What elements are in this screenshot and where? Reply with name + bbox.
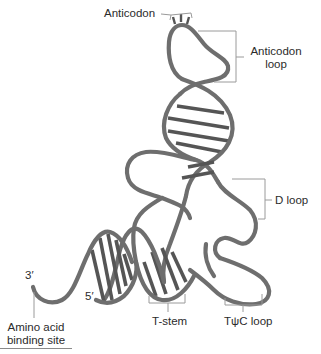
five-prime-label: 5′ bbox=[85, 290, 94, 303]
d-arm-loop-left bbox=[127, 152, 196, 218]
anticodon-label: Anticodon bbox=[104, 7, 155, 20]
anticodon-loop-label-line2: loop bbox=[246, 58, 306, 71]
central-strand-a bbox=[163, 196, 186, 282]
tpsic-connector bbox=[205, 244, 214, 276]
anticodon-stem bbox=[168, 106, 229, 152]
footer-rule bbox=[0, 348, 72, 349]
d-loop-strand bbox=[215, 182, 256, 258]
amino-acid-label-line1: Amino acid bbox=[2, 321, 70, 334]
anticodon-bases bbox=[173, 14, 189, 24]
amino-acid-binding-site-label: Amino acid binding site bbox=[2, 321, 70, 347]
tpsic-loop-label: TψC loop bbox=[224, 315, 272, 328]
three-prime-label: 3′ bbox=[25, 269, 34, 282]
tpsic-loop-strand bbox=[190, 258, 269, 304]
amino-acid-label-line2: binding site bbox=[2, 334, 70, 347]
t-stem-label: T-stem bbox=[152, 315, 187, 328]
anticodon-loop-label: Anticodon loop bbox=[246, 45, 306, 71]
anticodon-leader bbox=[161, 14, 171, 15]
d-loop-label: D loop bbox=[275, 194, 308, 207]
anticodon-loop-label-line1: Anticodon bbox=[246, 45, 306, 58]
